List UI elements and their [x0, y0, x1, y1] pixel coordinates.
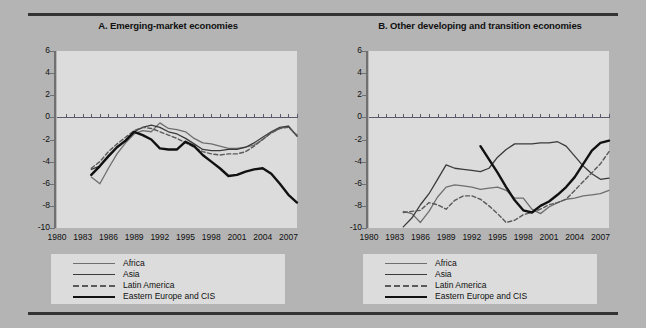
panel-b-x-tick-label: 1998 [509, 232, 537, 242]
figure-container: A. Emerging-market economies 19801983198… [0, 0, 646, 328]
panel-a-x-minor-tick [143, 114, 144, 118]
panel-a-x-minor-tick [134, 114, 135, 118]
panel-a-x-minor-tick [288, 114, 289, 118]
panel-a-legend-label-asia: Asia [123, 269, 140, 280]
panel-b-x-minor-tick [523, 114, 524, 118]
panel-b-series-asia [403, 142, 609, 227]
panel-a-x-minor-tick [151, 114, 152, 118]
panel-a-x-tick-label: 1986 [94, 232, 122, 242]
panel-a-x-minor-tick [108, 114, 109, 118]
panel-a-x-minor-tick [74, 114, 75, 118]
panel-b-x-minor-tick [540, 114, 541, 118]
panel-a-legend-swatch-asia [73, 274, 115, 275]
panel-a-x-minor-tick [263, 114, 264, 118]
panel-b-legend-swatch-africa [385, 263, 427, 264]
panel-a-y-tick [50, 228, 55, 229]
panel-a-x-minor-tick [271, 114, 272, 118]
panel-b-y-tick [362, 95, 367, 96]
panel-b-legend-label-eecis: Eastern Europe and CIS [435, 291, 527, 302]
panel-b-y-tick [362, 117, 367, 118]
panel-a-x-minor-tick [160, 114, 161, 118]
panel-a-x-tick-label: 2007 [274, 232, 302, 242]
panel-b-x-tick-label: 1980 [355, 232, 383, 242]
panel-a-y-tick [50, 73, 55, 74]
panel-b-y-tick [362, 206, 367, 207]
panel-a-x-tick-label: 1983 [69, 232, 97, 242]
panel-a-y-tick-label: -6 [24, 179, 50, 188]
panel-b-x-minor-tick [438, 114, 439, 118]
panel-a-x-minor-tick [117, 114, 118, 118]
panel-a-plot-area [57, 51, 297, 228]
panel-a-y-tick-label: -2 [24, 135, 50, 144]
panel-a-x-minor-tick [203, 114, 204, 118]
panel-a-x-tick-label: 1998 [197, 232, 225, 242]
panel-b-x-minor-tick [378, 114, 379, 118]
panel-b-x-tick-label: 1989 [432, 232, 460, 242]
panel-b-y-tick-label: -2 [336, 135, 362, 144]
panel-b-x-minor-tick [515, 114, 516, 118]
panel-a-y-tick-label: 4 [24, 68, 50, 77]
panel-b-y-tick-label: -6 [336, 179, 362, 188]
panel-a-series-africa [91, 123, 297, 184]
panel-a-x-minor-tick [83, 114, 84, 118]
panel-a-x-minor-tick [168, 114, 169, 118]
panel-b-x-minor-tick [446, 114, 447, 118]
panel-a-x-tick-label: 2004 [249, 232, 277, 242]
panel-b: B. Other developing and transition econo… [330, 18, 630, 310]
panel-a-y-tick [50, 140, 55, 141]
panel-a-x-tick-label: 1980 [43, 232, 71, 242]
panel-b-x-minor-tick [566, 114, 567, 118]
panel-b-series-eecis [480, 141, 609, 213]
panel-b-x-minor-tick [600, 114, 601, 118]
panel-a-x-minor-tick [66, 114, 67, 118]
panel-a-x-minor-tick [126, 114, 127, 118]
panel-b-x-minor-tick [549, 114, 550, 118]
panel-b-y-tick-label: 2 [336, 90, 362, 99]
panel-b-x-minor-tick [532, 114, 533, 118]
panel-b-x-axis-labels: 1980198319861989199219951998200120042007 [358, 232, 620, 244]
panel-b-x-tick-label: 1983 [381, 232, 409, 242]
panel-b-y-tick [362, 184, 367, 185]
panel-b-legend: AfricaAsiaLatin AmericaEastern Europe an… [363, 254, 597, 304]
panel-b-x-minor-tick [592, 114, 593, 118]
panel-b-y-tick-label: -10 [336, 223, 362, 232]
panel-a-x-minor-tick [186, 114, 187, 118]
panel-b-x-minor-tick [455, 114, 456, 118]
panel-b-x-minor-tick [463, 114, 464, 118]
panel-a-legend-swatch-africa [73, 263, 115, 264]
panel-b-y-tick [362, 51, 367, 52]
bottom-rule [28, 312, 618, 315]
panel-b-series-layer [369, 51, 609, 228]
panel-a-y-tick-label: -4 [24, 157, 50, 166]
panel-a-series-eecis [91, 132, 297, 203]
panel-a-series-layer [57, 51, 297, 228]
panel-b-x-minor-tick [429, 114, 430, 118]
panel-a-y-tick [50, 51, 55, 52]
panel-b-legend-swatch-eecis [385, 296, 427, 298]
panel-b-y-tick [362, 228, 367, 229]
panel-b-legend-label-africa: Africa [435, 258, 457, 269]
panel-b-x-minor-tick [498, 114, 499, 118]
panel-b-x-minor-tick [420, 114, 421, 118]
panel-b-x-tick-label: 1995 [484, 232, 512, 242]
panel-b-x-minor-tick [395, 114, 396, 118]
panel-b-legend-label-latin: Latin America [435, 280, 487, 291]
panel-b-y-tick-label: -8 [336, 201, 362, 210]
panel-a: A. Emerging-market economies 19801983198… [18, 18, 318, 310]
panel-a-x-tick-label: 2001 [223, 232, 251, 242]
panel-b-y-tick-label: 6 [336, 46, 362, 55]
panel-a-y-tick-label: -8 [24, 201, 50, 210]
panel-b-y-tick-label: -4 [336, 157, 362, 166]
panel-a-x-tick-label: 1995 [172, 232, 200, 242]
panel-b-x-tick-label: 2007 [586, 232, 614, 242]
panel-b-y-tick-label: 4 [336, 68, 362, 77]
top-rule [28, 13, 618, 16]
panel-b-y-tick [362, 162, 367, 163]
panel-b-x-tick-label: 2001 [535, 232, 563, 242]
panel-a-y-tick [50, 162, 55, 163]
panel-a-x-minor-tick [280, 114, 281, 118]
panel-a-y-tick [50, 184, 55, 185]
panel-b-y-tick [362, 140, 367, 141]
panel-a-x-minor-tick [297, 114, 298, 118]
panel-a-y-tick [50, 95, 55, 96]
